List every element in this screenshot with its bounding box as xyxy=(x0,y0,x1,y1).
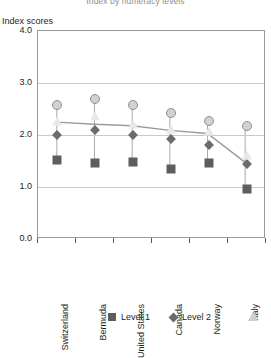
data-point-diamond xyxy=(128,130,138,140)
data-point-square xyxy=(243,185,252,194)
data-point-triangle xyxy=(204,127,214,136)
legend-item-2[interactable]: Level 2 xyxy=(170,312,211,322)
data-point-triangle xyxy=(166,124,176,133)
chart-legend: Level 1Level 2 xyxy=(0,312,271,334)
legend-label: Level 2 xyxy=(182,312,211,322)
legend-item-1[interactable]: Level 1 xyxy=(108,312,150,322)
x-tickmark xyxy=(227,238,228,243)
gridline xyxy=(38,83,264,84)
x-tickmark xyxy=(37,238,38,243)
data-point-triangle xyxy=(128,119,138,128)
data-point-diamond xyxy=(90,125,100,135)
triangle-icon xyxy=(248,312,258,321)
y-tick-label: 3.0 xyxy=(3,77,32,87)
data-point-square xyxy=(129,158,138,167)
data-point-circle xyxy=(90,94,100,104)
gridline xyxy=(38,187,264,188)
data-point-square xyxy=(53,155,62,164)
x-tickmark xyxy=(151,238,152,243)
trend-line-layer xyxy=(38,31,264,237)
gridline xyxy=(38,135,264,136)
data-point-diamond xyxy=(52,130,62,140)
x-tickmark xyxy=(75,238,76,243)
x-tickmark xyxy=(189,238,190,243)
data-point-diamond xyxy=(242,159,252,169)
plot-area xyxy=(37,30,265,238)
legend-label: Level 1 xyxy=(121,312,150,322)
data-point-triangle xyxy=(242,150,252,159)
data-point-circle xyxy=(52,100,62,110)
x-axis-labels: SwitzerlandBermudaUnited StatesCanadaNor… xyxy=(37,244,265,306)
square-icon xyxy=(108,313,116,321)
data-point-circle xyxy=(128,100,138,110)
data-point-circle xyxy=(166,108,176,118)
data-point-triangle xyxy=(52,117,62,126)
data-point-square xyxy=(167,164,176,173)
y-tick-label: 0.0 xyxy=(3,233,32,243)
y-tick-label: 4.0 xyxy=(3,25,32,35)
data-point-square xyxy=(205,158,214,167)
data-point-circle xyxy=(204,116,214,126)
y-tick-label: 2.0 xyxy=(3,129,32,139)
diamond-icon xyxy=(169,312,179,322)
x-axis-tickmarks xyxy=(37,238,265,243)
data-point-circle xyxy=(242,121,252,131)
chart-title: Index by numeracy levels xyxy=(0,0,271,6)
data-point-diamond xyxy=(204,140,214,150)
legend-item-3[interactable] xyxy=(248,312,263,321)
data-point-triangle xyxy=(90,112,100,121)
data-point-square xyxy=(91,159,100,168)
y-tick-label: 1.0 xyxy=(3,181,32,191)
x-tickmark xyxy=(265,238,266,243)
x-tickmark xyxy=(113,238,114,243)
